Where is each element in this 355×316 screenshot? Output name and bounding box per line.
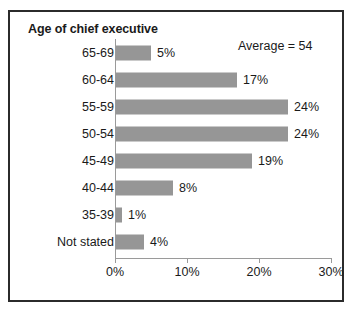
x-axis-tick — [115, 258, 116, 263]
bar-not-stated — [115, 234, 144, 249]
bar-row: 35-39 1% — [10, 201, 342, 228]
chart-frame: Age of chief executive Average = 54 65-6… — [8, 10, 344, 302]
bar-45-49 — [115, 153, 252, 168]
bar-60-64 — [115, 72, 237, 87]
bar-value-label: 24% — [294, 127, 319, 141]
x-axis-tick — [187, 258, 188, 263]
category-label: 65-69 — [82, 46, 114, 60]
bar-row: 65-69 5% — [10, 39, 342, 66]
bar-50-54 — [115, 126, 288, 141]
bar-value-label: 1% — [128, 208, 146, 222]
bar-value-label: 5% — [157, 46, 175, 60]
x-axis-line — [115, 258, 332, 259]
bar-value-label: 8% — [179, 181, 197, 195]
bar-row: Not stated 4% — [10, 228, 342, 255]
x-axis-tick — [331, 258, 332, 263]
x-axis-tick-label: 0% — [106, 265, 124, 279]
category-label: 35-39 — [82, 208, 114, 222]
x-axis-tick — [259, 258, 260, 263]
plot-area: Average = 54 65-69 5% 60-64 17% 55-59 24… — [10, 12, 342, 300]
x-axis-tick-label: 10% — [174, 265, 199, 279]
category-label: 45-49 — [82, 154, 114, 168]
category-label: Not stated — [57, 235, 114, 249]
y-axis-line — [115, 39, 116, 258]
bar-65-69 — [115, 45, 151, 60]
category-label: 50-54 — [82, 127, 114, 141]
bar-value-label: 19% — [258, 154, 283, 168]
bar-row: 40-44 8% — [10, 174, 342, 201]
x-axis-tick-label: 20% — [246, 265, 271, 279]
x-axis-tick-label: 30% — [318, 265, 343, 279]
bar-value-label: 24% — [294, 100, 319, 114]
bar-40-44 — [115, 180, 173, 195]
category-label: 60-64 — [82, 73, 114, 87]
bar-35-39 — [115, 207, 122, 222]
category-label: 40-44 — [82, 181, 114, 195]
bar-55-59 — [115, 99, 288, 114]
category-label: 55-59 — [82, 100, 114, 114]
bar-value-label: 17% — [243, 73, 268, 87]
bar-row: 60-64 17% — [10, 66, 342, 93]
bar-row: 45-49 19% — [10, 147, 342, 174]
bar-row: 50-54 24% — [10, 120, 342, 147]
bar-row: 55-59 24% — [10, 93, 342, 120]
bar-value-label: 4% — [150, 235, 168, 249]
